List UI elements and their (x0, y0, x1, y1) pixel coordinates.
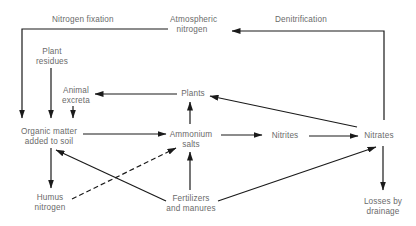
node-atmospheric-nitrogen-line2: nitrogen (170, 25, 214, 35)
node-ammonium-salts-line2: salts (164, 140, 218, 150)
node-organic-matter-line2: added to soil (12, 137, 86, 147)
nitrogen-cycle-diagram: Nitrogen fixation Denitrification Atmosp… (0, 0, 416, 226)
node-animal-excreta-line2: excreta (58, 96, 94, 106)
edge-denitrification (232, 31, 384, 120)
label-nitrogen-fixation: Nitrogen fixation (52, 15, 114, 25)
node-ammonium-salts-line1: Ammonium (164, 130, 218, 140)
node-fertilizers-manures: Fertilizers and manures (162, 194, 220, 214)
node-plant-residues-line2: residues (33, 57, 71, 67)
node-nitrates-line1: Nitrates (360, 131, 398, 141)
node-nitrates: Nitrates (360, 131, 398, 141)
node-humus-nitrogen: Humus nitrogen (32, 193, 68, 213)
edge-fertilizers-organic (56, 150, 166, 201)
node-humus-nitrogen-line1: Humus (32, 193, 68, 203)
node-fertilizers-line1: Fertilizers (162, 194, 220, 204)
edge-nitrogen-fixation (22, 29, 168, 118)
node-atmospheric-nitrogen: Atmospheric nitrogen (170, 15, 214, 35)
node-plants-line1: Plants (178, 89, 208, 99)
node-humus-nitrogen-line2: nitrogen (32, 203, 68, 213)
label-denitrification: Denitrification (275, 15, 327, 25)
edge-fertilizers-nitrates (218, 147, 376, 201)
edge-humus-ammonium (72, 148, 176, 199)
node-losses-line1: Losses by (358, 197, 408, 207)
node-organic-matter-line1: Organic matter (12, 127, 86, 137)
node-plant-residues-line1: Plant (33, 47, 71, 57)
edge-nitrates-plants (210, 96, 357, 127)
node-animal-excreta-line1: Animal (58, 86, 94, 96)
node-nitrites: Nitrites (267, 131, 303, 141)
node-plant-residues: Plant residues (33, 47, 71, 67)
node-losses-drainage: Losses by drainage (358, 197, 408, 217)
node-ammonium-salts: Ammonium salts (164, 130, 218, 150)
node-organic-matter: Organic matter added to soil (12, 127, 86, 147)
node-atmospheric-nitrogen-line1: Atmospheric (170, 15, 214, 25)
node-fertilizers-line2: and manures (162, 204, 220, 214)
node-animal-excreta: Animal excreta (58, 86, 94, 106)
node-losses-line2: drainage (358, 207, 408, 217)
node-nitrites-line1: Nitrites (267, 131, 303, 141)
node-plants: Plants (178, 89, 208, 99)
